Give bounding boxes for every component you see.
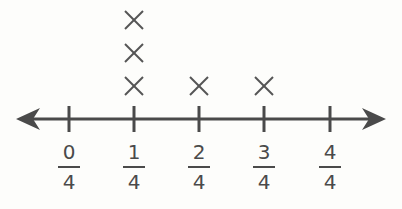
numerator: 4 (315, 141, 345, 163)
numerator: 0 (54, 141, 84, 163)
denominator: 4 (184, 171, 214, 193)
line-plot: 0414243444 (0, 0, 402, 209)
tick-label-3: 34 (249, 141, 279, 193)
x-mark-icon (255, 77, 273, 95)
denominator: 4 (119, 171, 149, 193)
fraction-bar (253, 166, 275, 168)
tick-label-0: 04 (54, 141, 84, 193)
fraction-bar (123, 166, 145, 168)
x-mark-icon (190, 77, 208, 95)
denominator: 4 (249, 171, 279, 193)
x-mark-icon (125, 77, 143, 95)
fraction-bar (319, 166, 341, 168)
tick-label-1: 14 (119, 141, 149, 193)
x-mark-icon (125, 44, 143, 62)
fraction-bar (58, 166, 80, 168)
denominator: 4 (54, 171, 84, 193)
numerator: 3 (249, 141, 279, 163)
numerator: 2 (184, 141, 214, 163)
tick-label-4: 44 (315, 141, 345, 193)
tick-label-2: 24 (184, 141, 214, 193)
x-mark-icon (125, 11, 143, 29)
x-marks (125, 11, 273, 95)
numerator: 1 (119, 141, 149, 163)
denominator: 4 (315, 171, 345, 193)
fraction-bar (188, 166, 210, 168)
